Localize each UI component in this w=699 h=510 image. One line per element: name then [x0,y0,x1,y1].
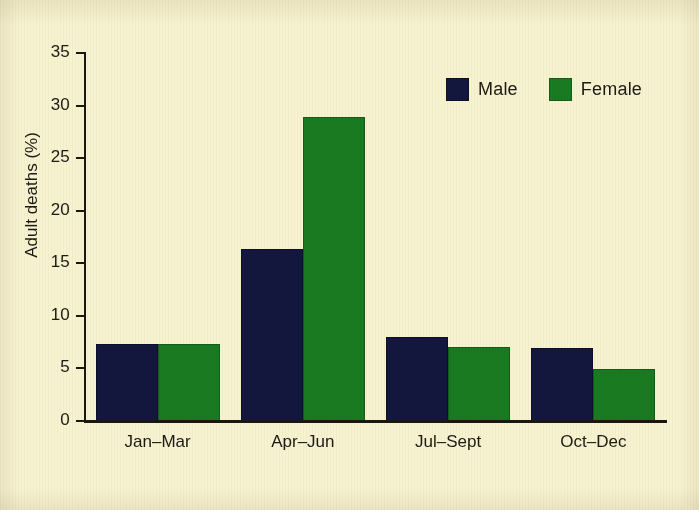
y-axis-tick-mark [76,210,85,212]
chart-page: 35302520151050 Adult deaths (%) Jan–MarA… [0,0,699,510]
legend-swatch-female-icon [549,78,572,101]
x-axis-group-label: Jan–Mar [78,432,238,452]
y-axis-tick-mark [76,157,85,159]
y-axis-tick-label: 35 [36,42,70,62]
y-axis-tick-label: 0 [36,410,70,430]
y-axis-tick-mark [76,315,85,317]
y-axis-tick-label: 5 [36,357,70,377]
y-axis-tick-mark [76,262,85,264]
x-axis-group-label: Oct–Dec [513,432,673,452]
bar-male [96,344,158,422]
y-axis-title: Adult deaths (%) [22,80,42,310]
bar-male [241,249,303,422]
y-axis-tick-mark [76,105,85,107]
legend-entry-male: Male [446,78,518,101]
bar-female [303,117,365,422]
x-axis-group-label: Apr–Jun [223,432,383,452]
bar-male [531,348,593,422]
x-axis-group-label: Jul–Sept [368,432,528,452]
bar-female [448,347,510,422]
y-axis-tick-mark [76,52,85,54]
y-axis-tick-mark [76,420,85,422]
bar-female [158,344,220,422]
plot-area [85,52,666,422]
x-axis-line [84,420,667,423]
bar-male [386,337,448,422]
legend-label-male: Male [478,79,518,100]
legend: Male Female [446,78,642,101]
legend-label-female: Female [581,79,642,100]
legend-entry-female: Female [549,78,642,101]
y-axis-tick-mark [76,367,85,369]
legend-swatch-male-icon [446,78,469,101]
bar-female [593,369,655,422]
